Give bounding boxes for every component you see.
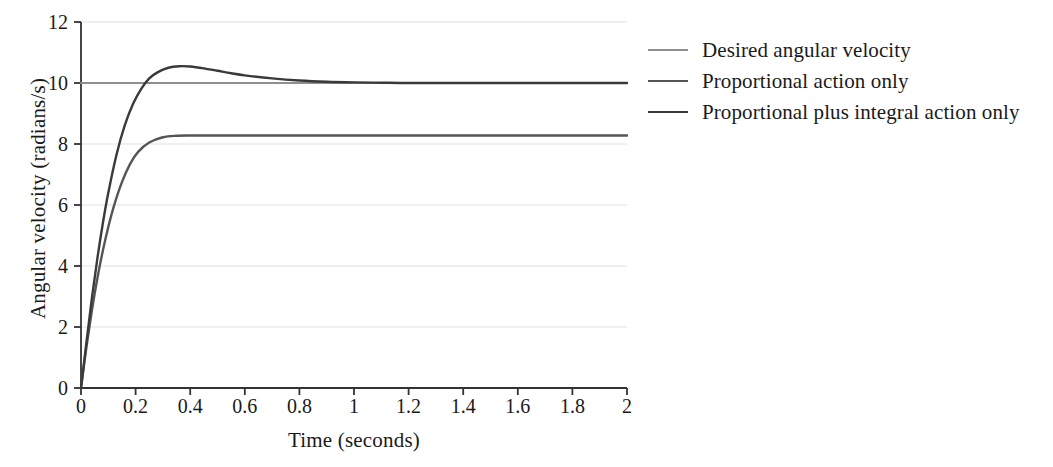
x-tick-label: 0 [51, 396, 111, 416]
legend-item[interactable]: Desired angular velocity [648, 34, 1020, 65]
x-tick-label: 0.8 [269, 396, 329, 416]
x-tick-label: 1.8 [542, 396, 602, 416]
legend-swatch-desired-angular-velocity [648, 49, 688, 51]
series-line [81, 66, 627, 388]
legend-label: Proportional action only [702, 70, 909, 92]
chart-legend: Desired angular velocity Proportional ac… [648, 34, 1020, 127]
x-tick-label: 1 [324, 396, 384, 416]
legend-item[interactable]: Proportional action only [648, 65, 1020, 96]
legend-swatch-proportional-plus-integral-action-only [648, 111, 688, 113]
legend-label: Proportional plus integral action only [702, 101, 1020, 123]
legend-item[interactable]: Proportional plus integral action only [648, 96, 1020, 127]
legend-swatch-proportional-action-only [648, 80, 688, 82]
plot-canvas [81, 22, 627, 388]
series-line [81, 135, 627, 388]
x-tick-label: 1.2 [379, 396, 439, 416]
x-tick-label: 2 [597, 396, 657, 416]
x-tick-label: 1.6 [488, 396, 548, 416]
x-tick-label: 0.4 [160, 396, 220, 416]
chart-figure: Angular velocity (radians/s) Time (secon… [0, 0, 1053, 467]
plot-area [81, 22, 627, 388]
legend-label: Desired angular velocity [702, 39, 911, 61]
x-tick-label: 0.2 [106, 396, 166, 416]
x-tick-label: 1.4 [433, 396, 493, 416]
x-tick-label: 0.6 [215, 396, 275, 416]
